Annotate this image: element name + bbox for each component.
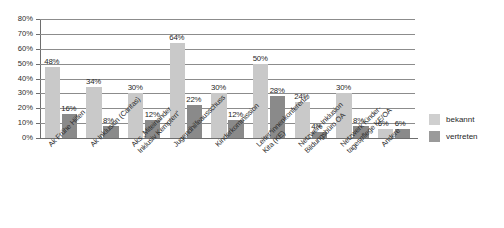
bar-value-label: 30% — [336, 83, 351, 92]
plot-area: 48%16%34%8%30%12%64%22%30%12%50%28%24%4%… — [40, 19, 415, 138]
y-tick-label: 50% — [3, 59, 33, 68]
bar-value-label: 6% — [395, 119, 406, 128]
bar-vertreten — [145, 120, 161, 138]
legend-item: vertreten — [429, 129, 501, 143]
y-tick-label: 20% — [3, 103, 33, 112]
chart-legend: bekanntvertreten — [429, 112, 501, 146]
bar-bekannt — [86, 87, 102, 138]
bar-value-label: 48% — [44, 57, 59, 66]
bar-value-label: 8% — [353, 116, 364, 125]
y-tick-label: 40% — [3, 74, 33, 83]
bar-bekannt — [170, 43, 186, 138]
y-tick-label: 0% — [3, 133, 33, 142]
bar-value-label: 50% — [253, 54, 268, 63]
legend-swatch-bekannt — [429, 114, 440, 125]
bar-value-label: 64% — [169, 33, 184, 42]
bar-value-label: 12% — [228, 110, 243, 119]
bar-value-label: 16% — [61, 104, 76, 113]
bar-vertreten — [353, 126, 369, 138]
bar-vertreten — [187, 105, 203, 138]
bar-value-label: 8% — [103, 116, 114, 125]
legend-label: vertreten — [446, 132, 478, 141]
bar-bekannt — [253, 64, 269, 138]
bar-vertreten — [62, 114, 78, 138]
bar-vertreten — [103, 126, 119, 138]
bar-bekannt — [211, 93, 227, 138]
legend-label: bekannt — [446, 115, 474, 124]
bar-bekannt — [378, 129, 394, 138]
y-tick-label: 80% — [3, 14, 33, 23]
bar-bekannt — [128, 93, 144, 138]
bar-value-label: 6% — [378, 119, 389, 128]
legend-item: bekannt — [429, 112, 501, 126]
y-tick-label: 60% — [3, 44, 33, 53]
legend-swatch-vertreten — [429, 131, 440, 142]
bar-value-label: 4% — [311, 122, 322, 131]
bar-value-label: 28% — [270, 86, 285, 95]
y-tick-label: 10% — [3, 118, 33, 127]
bar-vertreten — [228, 120, 244, 138]
bar-value-label: 30% — [128, 83, 143, 92]
x-axis-line — [40, 138, 418, 139]
bar-value-label: 12% — [145, 110, 160, 119]
bar-value-label: 24% — [294, 92, 309, 101]
bar-value-label: 22% — [186, 95, 201, 104]
bar-value-label: 30% — [211, 83, 226, 92]
bar-vertreten — [270, 96, 286, 138]
y-tick-label: 30% — [3, 88, 33, 97]
bar-value-label: 34% — [86, 77, 101, 86]
bar-vertreten — [395, 129, 411, 138]
bar-bekannt — [45, 67, 61, 138]
bar-vertreten — [312, 132, 328, 138]
bar-chart: 80%70%60%50%40%30%20%10%0% 48%16%34%8%30… — [0, 0, 504, 228]
bar-bekannt — [295, 102, 311, 138]
bar-bekannt — [336, 93, 352, 138]
y-tick-label: 70% — [3, 29, 33, 38]
